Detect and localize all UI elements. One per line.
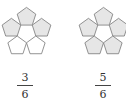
outer-pentagon (94, 7, 113, 25)
outer-pentagon (17, 7, 36, 25)
fraction-right-denominator: 6 (93, 89, 113, 100)
fraction-right: 5 6 (93, 72, 113, 100)
fraction-left: 3 6 (15, 72, 35, 100)
figure-right (79, 7, 126, 53)
fraction-right-numerator: 5 (93, 72, 113, 83)
outer-pentagon (32, 18, 51, 36)
fraction-left-numerator: 3 (15, 72, 35, 83)
figure-left (2, 7, 51, 53)
outer-pentagon (109, 18, 126, 36)
fraction-left-bar (17, 85, 33, 86)
fraction-left-denominator: 6 (15, 89, 35, 100)
outer-pentagon (2, 18, 21, 36)
fraction-right-bar (95, 85, 111, 86)
outer-pentagon (79, 18, 98, 36)
